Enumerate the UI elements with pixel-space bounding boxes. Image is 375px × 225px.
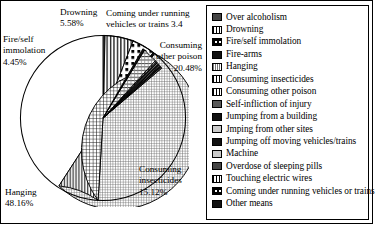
legend-item: Over alcoholism	[212, 11, 365, 23]
legend-swatch-icon	[212, 88, 222, 96]
legend-item: Jumping from a building	[212, 111, 365, 123]
legend-swatch-icon	[212, 138, 222, 146]
legend-swatch-icon	[212, 175, 222, 183]
legend-label: Jumping from a building	[226, 112, 317, 121]
legend-label: Fire-arms	[226, 50, 262, 59]
legend-swatch-icon	[212, 150, 222, 158]
legend-swatch-icon	[212, 38, 222, 46]
legend-swatch-icon	[212, 13, 222, 21]
pie-plot-area: Fire/self immolation 4.45% Drowning 5.58…	[1, 1, 211, 225]
legend-item: Machine	[212, 148, 365, 160]
legend-label: Jumping off moving vehicles/trains	[226, 137, 356, 146]
legend-item: Coming under running vehicles or trains	[212, 185, 365, 197]
legend-item: Drowning	[212, 23, 365, 35]
legend-item: Consuming other poison	[212, 86, 365, 98]
legend-label: Consuming other poison	[226, 87, 316, 96]
legend-label: Touching electric wires	[226, 174, 312, 183]
legend-label: Self-infliction of injury	[226, 100, 312, 109]
legend-label: Fire/self immolation	[226, 37, 301, 46]
legend-swatch-icon	[212, 63, 222, 71]
pie-label-hanging: Hanging 48.16%	[5, 187, 65, 210]
legend-item: Jmping from other sites	[212, 123, 365, 135]
pie-label-consuming-other-poison: Consuming other poison 20.48%	[140, 40, 202, 74]
pie-label-consuming-insecticides: Consuming insecticides 15.12%	[139, 164, 203, 198]
legend-label: Other means	[226, 199, 273, 208]
legend-swatch-icon	[212, 113, 222, 121]
legend-swatch-icon	[212, 26, 222, 34]
legend-swatch-icon	[212, 162, 222, 170]
legend-item: Jumping off moving vehicles/trains	[212, 135, 365, 147]
legend-item: Self-infliction of injury	[212, 98, 365, 110]
legend-label: Coming under running vehicles or trains	[226, 187, 375, 196]
legend-label: Over alcoholism	[226, 13, 287, 22]
legend-item: Overdose of sleeping pills	[212, 160, 365, 172]
legend-item: Hanging	[212, 61, 365, 73]
legend-label: Drowning	[226, 25, 263, 34]
legend-label: Consuming insecticides	[226, 75, 313, 84]
pie-label-coming-under-vehicles: Coming under running vehicles or trains …	[106, 8, 198, 31]
pie-label-fire-self-immolation: Fire/self immolation 4.45%	[3, 34, 61, 68]
legend-swatch-icon	[212, 125, 222, 133]
legend-swatch-icon	[212, 200, 222, 208]
legend-item: Fire/self immolation	[212, 36, 365, 48]
legend-label: Jmping from other sites	[226, 125, 313, 134]
legend-swatch-icon	[212, 100, 222, 108]
legend-label: Overdose of sleeping pills	[226, 162, 322, 171]
legend-label: Machine	[226, 149, 258, 158]
legend-item: Consuming insecticides	[212, 73, 365, 85]
legend-swatch-icon	[212, 187, 222, 195]
legend-item: Fire-arms	[212, 48, 365, 60]
legend-item: Other means	[212, 198, 365, 210]
legend-label: Hanging	[226, 62, 258, 71]
chart-legend: Over alcoholism Drowning Fire/self immol…	[206, 5, 369, 220]
legend-swatch-icon	[212, 75, 222, 83]
legend-swatch-icon	[212, 51, 222, 59]
legend-item: Touching electric wires	[212, 173, 365, 185]
